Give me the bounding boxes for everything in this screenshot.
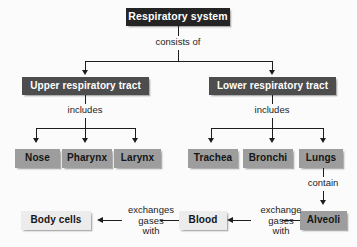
arrowhead-lungs [320,138,326,143]
node-pharynx[interactable]: Pharynx [62,149,112,168]
node-body-cells[interactable]: Body cells [21,211,91,230]
node-respiratory-system-label: Respiratory system [128,11,227,22]
node-trachea[interactable]: Trachea [188,149,238,168]
node-lungs[interactable]: Lungs [299,149,343,168]
connector-alveoli-blood-left [233,220,251,221]
arrowhead-blood [227,217,233,223]
connector-root-split-bar [85,61,272,62]
connector-root-stem-lower [178,50,179,61]
connector-upper-stem-lower [85,118,86,128]
node-lungs-label: Lungs [306,153,337,164]
edge-label-includes-upper: includes [55,105,115,116]
arrowhead-upper-tract [82,70,88,75]
node-blood-label: Blood [189,215,218,226]
node-upper-respiratory-tract[interactable]: Upper respiratory tract [22,77,149,95]
node-trachea-label: Trachea [194,153,233,164]
connector-lower-split-bar [211,128,323,129]
edge-label-blood-cells-line1: exchanges [128,204,174,215]
connector-lungs-stem-upper [323,168,324,177]
edge-label-consists-of: consists of [148,37,208,48]
arrowhead-lower-tract [269,70,275,75]
node-respiratory-system[interactable]: Respiratory system [126,8,230,26]
edge-label-includes-lower: includes [242,105,302,116]
arrowhead-body-cells [97,217,103,223]
edge-label-blood-cells-line2: gases [138,215,163,226]
node-larynx[interactable]: Larynx [114,149,161,168]
edge-label-alveoli-blood-line3: with [273,225,290,236]
edge-label-alveoli-blood-line2: gases [268,215,293,226]
node-nose[interactable]: Nose [15,149,60,168]
connector-root-stem-upper [178,26,179,36]
node-bronchi[interactable]: Bronchi [243,149,293,168]
edge-label-alveoli-blood-line1: exchange [260,204,301,215]
arrowhead-trachea [208,138,214,143]
arrowhead-nose [33,138,39,143]
arrowhead-bronchi [269,138,275,143]
edge-label-blood-cells-line3: with [143,225,160,236]
node-nose-label: Nose [25,153,50,164]
connector-lower-stem-upper [272,95,273,104]
connector-upper-stem-upper [85,95,86,104]
node-upper-respiratory-tract-label: Upper respiratory tract [30,81,141,92]
node-larynx-label: Larynx [121,153,154,164]
edge-label-contain: contain [295,178,351,189]
node-pharynx-label: Pharynx [67,153,107,164]
node-blood[interactable]: Blood [179,211,227,230]
arrowhead-pharynx [82,138,88,143]
arrowhead-larynx [132,138,138,143]
node-lower-respiratory-tract-label: Lower respiratory tract [217,81,328,92]
connector-blood-cells-left [103,220,122,221]
edge-label-alveoli-blood: exchange gases with [251,205,311,237]
arrowhead-alveoli [320,200,326,205]
node-lower-respiratory-tract[interactable]: Lower respiratory tract [209,77,336,95]
respiratory-system-diagram: Respiratory system consists of Upper res… [0,0,357,247]
node-alveoli-label: Alveoli [307,215,341,226]
node-body-cells-label: Body cells [30,215,81,226]
edge-label-blood-body-cells: exchanges gases with [121,205,181,237]
connector-lower-stem-lower [272,118,273,128]
node-bronchi-label: Bronchi [249,153,287,164]
